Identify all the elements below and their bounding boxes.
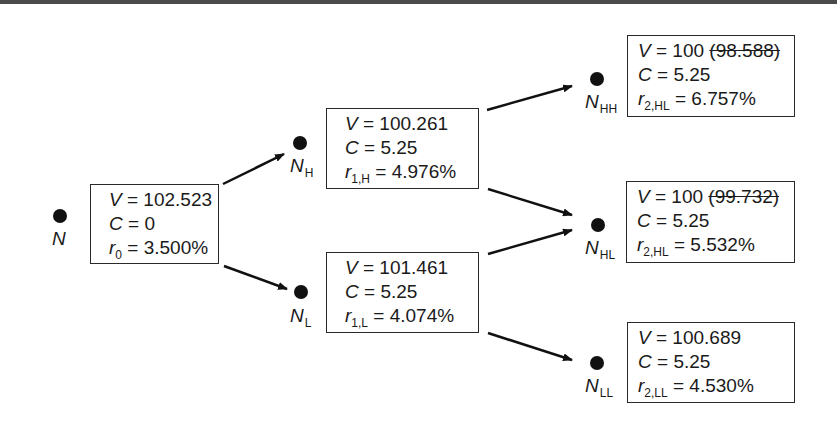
- node-label-n: N: [52, 229, 67, 252]
- node-box-nh: V = 100.261 C = 5.25 r1,H = 4.976%: [326, 108, 479, 189]
- node-dot-n: [53, 209, 67, 223]
- value-line: V = 102.523: [109, 188, 218, 212]
- value-line: V = 100 (99.732): [637, 185, 794, 209]
- node-dot-nhl: [591, 218, 605, 232]
- node-box-nhh: V = 100 (98.588) C = 5.25 r2,HL = 6.757%: [627, 35, 795, 117]
- edge-nl-nhl: [488, 230, 572, 254]
- rate-line: r1,H = 4.976%: [345, 160, 478, 184]
- value-line: V = 100.689: [638, 326, 794, 350]
- edge-n-nh: [223, 154, 284, 184]
- node-label-nhh: NHH: [585, 92, 617, 115]
- coupon-line: C = 0: [109, 212, 218, 236]
- coupon-line: C = 5.25: [638, 63, 794, 87]
- value-line: V = 100 (98.588): [638, 39, 794, 63]
- coupon-line: C = 5.25: [345, 280, 478, 304]
- node-label-nl: NL: [290, 306, 311, 329]
- value-line: V = 101.461: [345, 256, 478, 280]
- edge-n-nl: [224, 266, 287, 289]
- node-dot-nll: [590, 356, 604, 370]
- coupon-line: C = 5.25: [345, 136, 478, 160]
- value-line: V = 100.261: [345, 112, 478, 136]
- edge-nl-nll: [488, 333, 572, 360]
- node-box-nll: V = 100.689 C = 5.25 r2,LL = 4.530%: [627, 322, 795, 403]
- struck-value: (98.588): [709, 40, 780, 61]
- node-box-nhl: V = 100 (99.732) C = 5.25 r2,HL = 5.532%: [626, 181, 795, 263]
- node-box-n: V = 102.523 C = 0 r0 = 3.500%: [90, 184, 219, 264]
- node-label-nh: NH: [290, 156, 313, 179]
- node-dot-nl: [294, 285, 308, 299]
- struck-value: (99.732): [708, 186, 779, 207]
- edge-nh-nhl: [488, 189, 572, 215]
- coupon-line: C = 5.25: [638, 350, 794, 374]
- rate-line: r2,HL = 6.757%: [638, 87, 794, 111]
- node-dot-nhh: [590, 72, 604, 86]
- node-box-nl: V = 101.461 C = 5.25 r1,L = 4.074%: [326, 252, 479, 333]
- node-label-nhl: NHL: [585, 238, 615, 261]
- rate-line: r2,LL = 4.530%: [638, 374, 794, 398]
- rate-line: r1,L = 4.074%: [345, 304, 478, 328]
- coupon-line: C = 5.25: [637, 209, 794, 233]
- rate-line: r0 = 3.500%: [109, 236, 218, 260]
- rate-line: r2,HL = 5.532%: [637, 233, 794, 257]
- node-label-nll: NLL: [585, 376, 613, 399]
- edge-nh-nhh: [487, 86, 572, 110]
- node-dot-nh: [293, 136, 307, 150]
